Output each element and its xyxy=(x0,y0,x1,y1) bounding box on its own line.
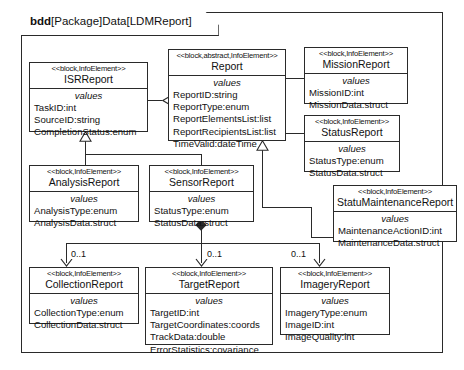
attribute-list: AnalysisType:enum AnalysisData:struct xyxy=(30,205,138,229)
attribute: ImageryType:enum xyxy=(285,307,389,319)
attribute: ReportElementsList:list xyxy=(173,113,285,125)
block-header: <<block,InfoElement>> AnalysisReport xyxy=(30,166,138,192)
block-values-compartment: values AnalysisType:enum AnalysisData:st… xyxy=(30,192,138,231)
attribute: ImageQuality:int xyxy=(285,331,389,343)
block-values-compartment: values MissionID:int MissionData:struct xyxy=(305,74,407,113)
compartment-label: values xyxy=(305,143,399,155)
block-header: <<block,InfoElement>> ImageryReport xyxy=(281,268,389,294)
attribute: ReportID:string xyxy=(173,89,285,101)
attribute: TimeValid:dateTime xyxy=(173,138,285,150)
block-analysis-report[interactable]: <<block,InfoElement>> AnalysisReport val… xyxy=(29,165,139,222)
attribute: TargetCoordinates:coords xyxy=(150,319,272,331)
attribute: ReportType:enum xyxy=(173,101,285,113)
attribute-list: TargetID:int TargetCoordinates:coords Tr… xyxy=(146,307,272,356)
attribute-list: CollectionType:enum CollectionData:struc… xyxy=(30,307,138,331)
conn-isr-to-report xyxy=(148,100,162,101)
conn-maintenance-drop xyxy=(311,207,312,238)
conn-leaf-distribution-bar xyxy=(66,243,320,244)
compartment-label: values xyxy=(30,295,138,307)
block-values-compartment: values TargetID:int TargetCoordinates:co… xyxy=(146,294,272,358)
compartment-label: values xyxy=(169,77,285,89)
attribute-list: MissionID:int MissionData:struct xyxy=(305,87,407,111)
block-name: CollectionReport xyxy=(33,279,135,291)
conn-report-bottom-elbow xyxy=(262,207,312,208)
attribute: MissionData:struct xyxy=(309,99,407,111)
block-mission-report[interactable]: <<block,InfoElement>> MissionReport valu… xyxy=(304,47,408,104)
multiplicity-collection: 0..1 xyxy=(70,249,87,259)
block-values-compartment: values CollectionType:enum CollectionDat… xyxy=(30,294,138,333)
compartment-label: values xyxy=(30,90,147,102)
block-header: <<block,InfoElement>> CollectionReport xyxy=(30,268,138,294)
block-name: MissionReport xyxy=(308,59,404,71)
compartment-label: values xyxy=(334,213,456,225)
block-name: StatusReport xyxy=(308,127,396,139)
attribute: ErrorStatistics:covariance xyxy=(150,344,272,356)
multiplicity-target: 0..1 xyxy=(206,249,223,259)
block-values-compartment: values ReportID:string ReportType:enum R… xyxy=(169,76,285,152)
attribute: ReportRecipientsList:list xyxy=(173,126,285,138)
conn-report-bottom-stem xyxy=(262,150,263,208)
conn-isr-children-bar xyxy=(85,154,202,155)
attribute-list: MaintenanceActionID:int MaintenanceData:… xyxy=(334,225,456,249)
diagram-kind-label: bdd xyxy=(30,15,51,27)
block-values-compartment: values StatusType:enum StatusData:struct xyxy=(305,142,399,181)
diagram-frame-title: bdd[Package]Data[LDMReport] xyxy=(21,12,219,36)
block-header: <<block,InfoElement>> MissionReport xyxy=(305,48,407,74)
attribute: TrackData:double xyxy=(150,331,272,343)
attribute: AnalysisData:struct xyxy=(34,217,138,229)
block-values-compartment: values StatusType:enum StatusData:struct xyxy=(150,192,253,231)
attribute: MaintenanceData:struct xyxy=(338,237,456,249)
block-name: AnalysisReport xyxy=(33,177,135,189)
block-header: <<block,abstract,InfoElement>> Report xyxy=(169,50,285,76)
attribute-list: TaskID:int SourceID:string CompletionSta… xyxy=(30,102,147,139)
attribute: TargetID:int xyxy=(150,307,272,319)
conn-isr-down xyxy=(85,141,86,155)
block-name: Report xyxy=(172,61,282,73)
attribute: SourceID:string xyxy=(34,114,147,126)
attribute: StatusData:struct xyxy=(154,217,253,229)
block-sensor-report[interactable]: <<block,InfoElement>> SensorReport value… xyxy=(149,165,254,222)
attribute-list: StatusType:enum StatusData:struct xyxy=(305,155,399,179)
block-header: <<block,InfoElement>> TargetReport xyxy=(146,268,272,294)
block-header: <<block,InfoElement>> StatusReport xyxy=(305,116,399,142)
compartment-label: values xyxy=(305,75,407,87)
block-values-compartment: values ImageryType:enum ImageID:int Imag… xyxy=(281,294,389,345)
block-imagery-report[interactable]: <<block,InfoElement>> ImageryReport valu… xyxy=(280,267,390,335)
block-report[interactable]: <<block,abstract,InfoElement>> Report va… xyxy=(168,49,286,141)
attribute-list: StatusType:enum StatusData:struct xyxy=(150,205,253,229)
attribute: MaintenanceActionID:int xyxy=(338,225,456,237)
attribute-list: ReportID:string ReportType:enum ReportEl… xyxy=(169,89,285,150)
block-values-compartment: values MaintenanceActionID:int Maintenan… xyxy=(334,212,456,251)
block-header: <<block,InfoElement>> SensorReport xyxy=(150,166,253,192)
block-isr-report[interactable]: <<block,InfoElement>> ISRReport values T… xyxy=(29,62,148,132)
compartment-label: values xyxy=(281,295,389,307)
attribute: CollectionType:enum xyxy=(34,307,138,319)
attribute: CompletionStatus:enum xyxy=(34,126,147,138)
compartment-label: values xyxy=(150,193,253,205)
attribute: CollectionData:struct xyxy=(34,319,138,331)
attribute: AnalysisType:enum xyxy=(34,205,138,217)
block-values-compartment: values TaskID:int SourceID:string Comple… xyxy=(30,89,147,140)
block-collection-report[interactable]: <<block,InfoElement>> CollectionReport v… xyxy=(29,267,139,324)
block-statu-maintenance-report[interactable]: <<block,InfoElement>> StatuMaintenanceRe… xyxy=(333,185,457,242)
block-name: TargetReport xyxy=(149,279,269,291)
attribute: StatusData:struct xyxy=(309,167,399,179)
conn-mission-to-report xyxy=(286,78,304,79)
multiplicity-imagery: 0..1 xyxy=(290,249,307,259)
compartment-label: values xyxy=(30,193,138,205)
bdd-diagram-canvas: bdd[Package]Data[LDMReport] xyxy=(0,0,464,370)
attribute: ImageID:int xyxy=(285,319,389,331)
conn-maintenance-to-report xyxy=(311,237,333,238)
block-target-report[interactable]: <<block,InfoElement>> TargetReport value… xyxy=(145,267,273,345)
block-name: ImageryReport xyxy=(284,279,386,291)
attribute: MissionID:int xyxy=(309,87,407,99)
attribute: StatusType:enum xyxy=(154,205,253,217)
attribute: StatusType:enum xyxy=(309,155,399,167)
attribute-list: ImageryType:enum ImageID:int ImageQualit… xyxy=(281,307,389,344)
diagram-title-text: [Package]Data[LDMReport] xyxy=(51,15,192,27)
block-name: StatuMaintenanceReport xyxy=(337,197,453,209)
block-name: SensorReport xyxy=(153,177,250,189)
attribute: TaskID:int xyxy=(34,102,147,114)
block-name: ISRReport xyxy=(33,74,144,86)
block-status-report[interactable]: <<block,InfoElement>> StatusReport value… xyxy=(304,115,400,172)
